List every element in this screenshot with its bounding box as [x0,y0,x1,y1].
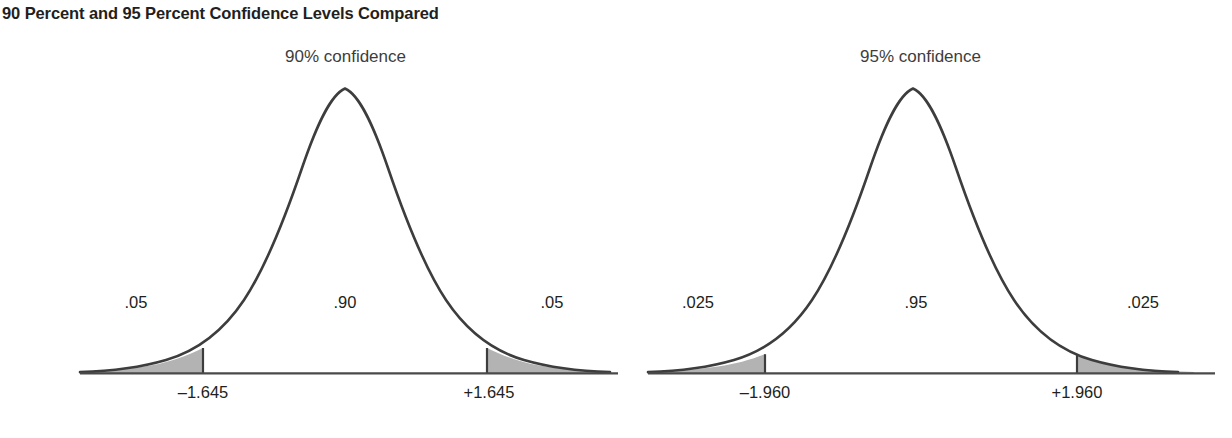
chart-90-percent-confidence: 90% confidence .05 .90 .05 –1.645 +1.645 [0,0,630,438]
chart-90-plot [0,0,630,438]
chart-95-center-label: .95 [876,293,956,312]
chart-95-left-tick-label: –1.960 [710,383,820,402]
chart-95-left-tail-label: .025 [653,293,743,312]
chart-90-center-label: .90 [305,293,385,312]
charts-container: 90% confidence .05 .90 .05 –1.645 +1.645… [0,0,1232,438]
chart-95-plot [630,0,1232,438]
chart-90-right-tick-label: +1.645 [434,383,544,402]
chart-95-normal-curve [648,89,1178,373]
chart-90-right-tail-label: .05 [512,293,592,312]
chart-90-normal-curve [80,89,610,373]
chart-90-left-tail-label: .05 [96,293,176,312]
chart-90-left-tick-label: –1.645 [148,383,258,402]
chart-95-percent-confidence: 95% confidence .025 .95 .025 –1.960 +1.9… [630,0,1232,438]
chart-95-right-tail-area [1077,354,1194,373]
chart-95-right-tail-label: .025 [1098,293,1188,312]
chart-95-right-tick-label: +1.960 [1022,383,1132,402]
